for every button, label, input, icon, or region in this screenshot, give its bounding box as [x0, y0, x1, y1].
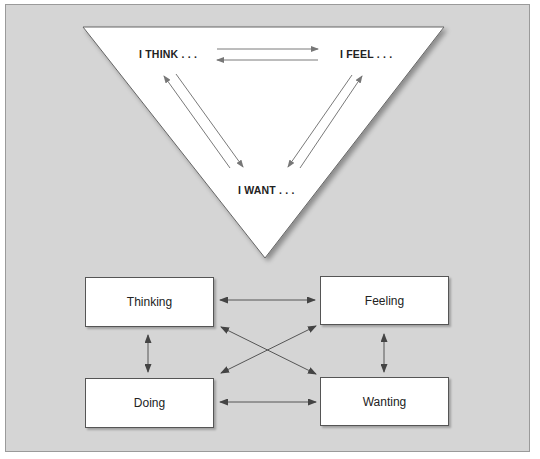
label-i-think: I THINK . . .: [139, 48, 197, 60]
box-wanting: Wanting: [320, 377, 449, 426]
box-feeling: Feeling: [320, 276, 449, 325]
arrow-thinking-wanting: [221, 327, 316, 374]
triangle-shape: [83, 27, 444, 258]
box-doing: Doing: [85, 378, 214, 428]
box-thinking: Thinking: [85, 277, 214, 327]
arrow-feeling-doing: [221, 326, 316, 373]
label-i-feel: I FEEL . . .: [340, 48, 392, 60]
label-i-want: I WANT . . .: [238, 184, 295, 196]
diagram-canvas: [0, 0, 540, 459]
